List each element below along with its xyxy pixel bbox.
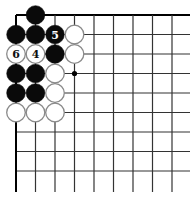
white-stone xyxy=(46,64,65,83)
white-stone-disc xyxy=(46,64,65,83)
black-stone xyxy=(7,25,26,44)
black-stone xyxy=(46,45,65,64)
white-stone-disc xyxy=(46,84,65,103)
white-stone xyxy=(46,84,65,103)
black-stone xyxy=(7,84,26,103)
go-board: 564 xyxy=(0,0,196,210)
black-stone xyxy=(7,64,26,83)
black-stone-disc xyxy=(7,64,26,83)
white-stone-disc xyxy=(46,103,65,122)
star-points xyxy=(72,71,77,76)
stones: 564 xyxy=(7,6,84,122)
white-stone: 4 xyxy=(26,45,45,64)
move-number-label: 4 xyxy=(32,48,40,61)
white-stone-disc xyxy=(7,103,26,122)
white-stone-disc xyxy=(26,103,45,122)
grid-lines xyxy=(16,15,190,192)
black-stone-disc xyxy=(26,6,45,25)
black-stone xyxy=(26,6,45,25)
star-point-icon xyxy=(72,71,77,76)
white-stone xyxy=(65,45,84,64)
black-stone xyxy=(26,64,45,83)
white-stone-disc xyxy=(65,25,84,44)
black-stone-disc xyxy=(26,64,45,83)
white-stone xyxy=(26,103,45,122)
black-stone: 5 xyxy=(46,25,65,44)
move-number-label: 6 xyxy=(12,48,20,61)
black-stone-disc xyxy=(26,25,45,44)
white-stone-disc xyxy=(65,45,84,64)
white-stone xyxy=(65,25,84,44)
white-stone xyxy=(7,103,26,122)
black-stone-disc xyxy=(7,84,26,103)
black-stone xyxy=(26,25,45,44)
white-stone xyxy=(46,103,65,122)
move-number-label: 5 xyxy=(51,29,59,42)
black-stone xyxy=(26,84,45,103)
white-stone: 6 xyxy=(7,45,26,64)
black-stone-disc xyxy=(7,25,26,44)
black-stone-disc xyxy=(26,84,45,103)
black-stone-disc xyxy=(46,45,65,64)
